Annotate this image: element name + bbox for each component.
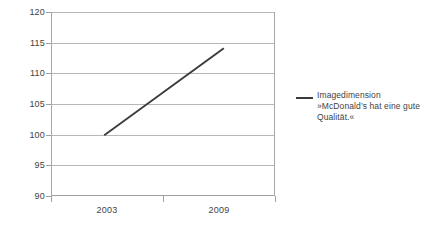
y-axis-label-120: 120	[5, 8, 45, 17]
plot-area	[51, 12, 275, 196]
data-series-line	[52, 12, 276, 196]
legend-label-line-2: »McDonald’s hat eine gute	[317, 101, 436, 112]
x-axis-label-2003: 2003	[72, 205, 142, 215]
legend-line-swatch-icon	[296, 97, 313, 99]
chart-legend: Imagedimension »McDonald’s hat eine gute…	[296, 90, 436, 124]
x-axis-tick-end	[275, 196, 276, 202]
x-axis-label-2009: 2009	[184, 205, 254, 215]
y-axis-label-110: 110	[5, 69, 45, 78]
y-axis-label-95: 95	[5, 161, 45, 170]
x-axis-tick-mid	[163, 196, 164, 202]
y-axis-label-115: 115	[5, 39, 45, 48]
line-chart: 120 115 110 105 100 95 90 2003 2009 Imag…	[0, 0, 440, 230]
y-axis-label-90: 90	[5, 192, 45, 201]
legend-item: Imagedimension »McDonald’s hat eine gute…	[296, 90, 436, 124]
legend-label-line-3: Qualität.«	[317, 112, 436, 123]
y-axis-label-105: 105	[5, 100, 45, 109]
legend-label-line-1: Imagedimension	[317, 90, 436, 101]
y-axis-label-100: 100	[5, 131, 45, 140]
x-axis-tick-start	[51, 196, 52, 202]
